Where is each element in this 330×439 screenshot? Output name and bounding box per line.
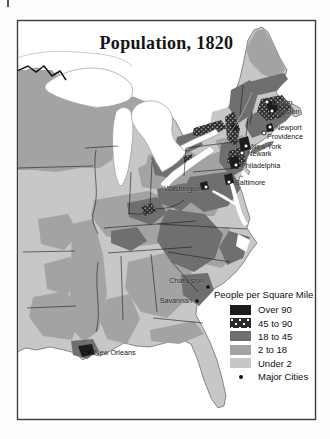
legend-label: Major Cities bbox=[258, 371, 308, 382]
legend-label: 18 to 45 bbox=[258, 331, 292, 342]
city-label: New Orleans bbox=[94, 348, 136, 357]
city-marker-new-orleans: New Orleans bbox=[87, 348, 136, 357]
legend-swatch-over-90 bbox=[230, 305, 251, 315]
city-dot bbox=[234, 163, 238, 167]
city-dot bbox=[206, 285, 210, 289]
city-label: Washington bbox=[164, 184, 202, 193]
legend-swatch-under-2 bbox=[230, 358, 251, 368]
city-dot bbox=[265, 100, 269, 104]
city-label: Newark bbox=[247, 149, 272, 158]
legend-swatch-45-90 bbox=[230, 318, 251, 328]
city-marker-philadelphia: Philadelphia bbox=[234, 161, 280, 170]
legend-item-45-90: 45 to 90 bbox=[213, 316, 313, 329]
city-label: Charleston bbox=[169, 276, 204, 285]
legend-item-2-18: 2 to 18 bbox=[213, 343, 313, 356]
legend: People per Square Mile Over 90 45 to 90 … bbox=[213, 289, 313, 383]
city-label: Savannah bbox=[160, 296, 192, 305]
city-label: Salem bbox=[272, 98, 292, 107]
city-dot bbox=[268, 125, 272, 129]
legend-label: 2 to 18 bbox=[258, 344, 287, 355]
major-city-dot-icon bbox=[239, 375, 243, 379]
legend-item-under-2: Under 2 bbox=[213, 357, 313, 370]
city-marker-washington: Washington bbox=[164, 184, 208, 193]
city-label: Baltimore bbox=[235, 178, 265, 187]
legend-item-18-45: 18 to 45 bbox=[213, 330, 313, 343]
city-dot bbox=[262, 131, 266, 135]
city-dot bbox=[270, 109, 274, 113]
city-dot bbox=[195, 299, 199, 303]
city-label: Providence bbox=[267, 132, 303, 141]
legend-dot-wrap bbox=[230, 375, 251, 379]
legend-item-major-cities: Major Cities bbox=[213, 370, 313, 383]
page-title: Population, 1820 bbox=[17, 33, 316, 54]
legend-label: Over 90 bbox=[258, 304, 292, 315]
map-figure: Salem Boston Newport Providence New York bbox=[0, 0, 330, 439]
city-dot bbox=[244, 144, 248, 148]
city-dot bbox=[204, 185, 208, 189]
legend-title: People per Square Mile bbox=[214, 289, 313, 300]
city-dot bbox=[240, 151, 244, 155]
city-label: Philadelphia bbox=[241, 161, 280, 170]
legend-label: Under 2 bbox=[258, 358, 292, 369]
city-dot bbox=[227, 180, 231, 184]
legend-label: 45 to 90 bbox=[258, 318, 292, 329]
legend-swatch-18-45 bbox=[230, 331, 251, 341]
city-label: Boston bbox=[277, 107, 299, 116]
legend-item-over-90: Over 90 bbox=[213, 303, 313, 316]
legend-swatch-2-18 bbox=[230, 345, 251, 355]
city-dot bbox=[87, 350, 91, 354]
city-marker-providence: Providence bbox=[262, 131, 303, 141]
city-label: Newport bbox=[275, 123, 302, 132]
